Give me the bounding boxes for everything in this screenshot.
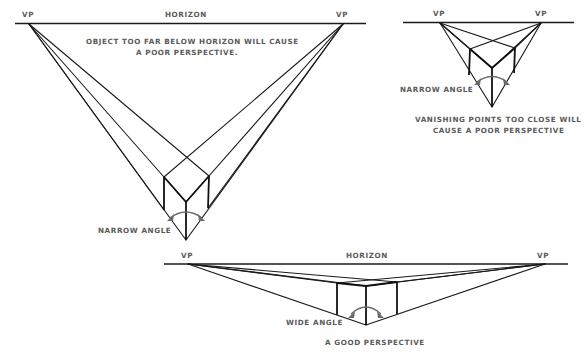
horizon-label: HORIZON: [346, 251, 388, 260]
angle-label: NARROW ANGLE: [98, 226, 171, 235]
angle-label: NARROW ANGLE: [400, 85, 473, 94]
diagram-close-vanishing-points: VP VP NARROW ANGLE VANISHING POINTS TOO …: [400, 9, 582, 135]
diagram-far-below-horizon: VP HORIZON VP OBJECT TOO FAR BELOW HORIZ…: [15, 10, 366, 240]
caption-line-2: A POOR PERSPECTIVE.: [136, 48, 238, 57]
diagram-good-perspective: VP HORIZON VP WIDE ANGLE A GOOD PERSPECT…: [164, 251, 568, 347]
box: [469, 48, 515, 107]
horizon-label: HORIZON: [165, 10, 207, 19]
vp-right-label: VP: [336, 10, 348, 19]
vp-left-label: VP: [181, 251, 193, 260]
caption-line-1: OBJECT TOO FAR BELOW HORIZON WILL CAUSE: [86, 37, 299, 46]
angle-label: WIDE ANGLE: [286, 318, 343, 327]
vp-right-label: VP: [535, 9, 547, 18]
caption: A GOOD PERSPECTIVE: [325, 338, 425, 347]
vanishing-lines: [440, 23, 541, 107]
vp-left-label: VP: [433, 9, 445, 18]
vp-left-label: VP: [22, 10, 34, 19]
caption-line-1: VANISHING POINTS TOO CLOSE WILL: [415, 115, 582, 124]
caption-line-2: CAUSE A POOR PERSPECTIVE: [433, 126, 564, 135]
vp-right-label: VP: [537, 251, 549, 260]
